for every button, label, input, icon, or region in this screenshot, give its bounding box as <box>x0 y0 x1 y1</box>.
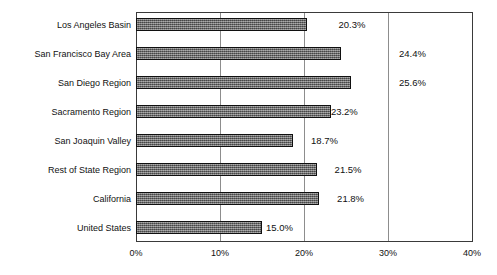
gridline-30 <box>388 13 389 241</box>
category-label: San Diego Region <box>0 78 131 89</box>
bar-value-label: 21.5% <box>335 164 362 176</box>
xtick-label: 10% <box>200 248 240 259</box>
bar <box>136 47 341 60</box>
bar <box>136 192 319 205</box>
bar <box>136 221 262 234</box>
xtick-label: 30% <box>368 248 408 259</box>
category-label: United States <box>0 223 131 234</box>
chart-title <box>0 0 497 4</box>
category-label: San Joaquin Valley <box>0 136 131 147</box>
bar <box>136 105 331 118</box>
category-label: San Francisco Bay Area <box>0 49 131 60</box>
bar-value-label: 20.3% <box>339 19 366 31</box>
xtick-label: 0% <box>116 248 156 259</box>
category-label: Los Angeles Basin <box>0 20 131 31</box>
bar-chart: Los Angeles Basin San Francisco Bay Area… <box>0 0 497 275</box>
bar <box>136 76 351 89</box>
bar-value-label: 25.6% <box>399 77 426 89</box>
category-label: Sacramento Region <box>0 107 131 118</box>
xtick-label: 40% <box>452 248 492 259</box>
bar-value-label: 24.4% <box>399 48 426 60</box>
xtick-label: 20% <box>284 248 324 259</box>
category-label: California <box>0 194 131 205</box>
category-label: Rest of State Region <box>0 165 131 176</box>
bar-value-label: 18.7% <box>311 135 338 147</box>
bar <box>136 163 317 176</box>
bar-value-label: 23.2% <box>331 106 358 118</box>
bar-value-label: 15.0% <box>266 222 293 234</box>
bar <box>136 18 307 31</box>
bar-value-label: 21.8% <box>337 193 364 205</box>
bar <box>136 134 293 147</box>
